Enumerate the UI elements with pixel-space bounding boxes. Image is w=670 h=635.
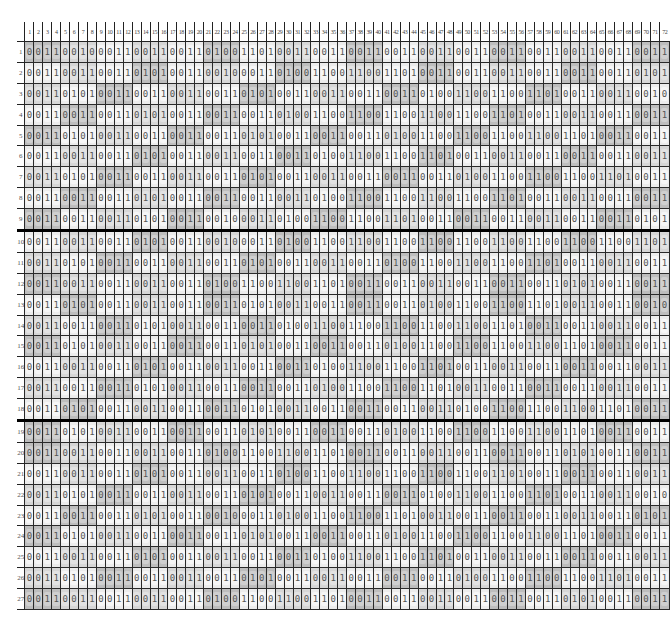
- bit-cell: 0: [257, 442, 266, 463]
- bit-value: 0: [330, 191, 337, 205]
- bit-value: 1: [294, 488, 301, 502]
- bit-cell: 0: [213, 421, 222, 443]
- bit-cell: 1: [615, 357, 624, 378]
- bit-cell: 1: [79, 209, 88, 231]
- bit-value: 0: [204, 550, 211, 564]
- bit-value: 1: [285, 108, 292, 122]
- bit-value: 0: [580, 446, 587, 460]
- bit-value: 0: [633, 87, 640, 101]
- bit-cell: 1: [222, 231, 231, 253]
- bit-cell: 0: [311, 83, 320, 104]
- bit-cell: 0: [561, 484, 570, 505]
- bit-value: 1: [481, 550, 488, 564]
- bit-cell: 1: [642, 209, 651, 231]
- bit-cell: 1: [516, 378, 525, 399]
- bit-cell: 0: [141, 399, 150, 421]
- column-header: 18: [177, 22, 186, 42]
- bit-value: 0: [106, 212, 113, 226]
- bit-cell: 1: [114, 125, 123, 146]
- bit-cell: 1: [418, 357, 427, 378]
- bit-cell: 1: [365, 252, 374, 273]
- bit-cell: 1: [659, 378, 669, 399]
- column-header: 50: [463, 22, 472, 42]
- bit-value: 1: [115, 425, 122, 439]
- bit-value: 1: [124, 550, 131, 564]
- bit-value: 1: [338, 277, 345, 291]
- bit-cell: 1: [606, 167, 615, 188]
- bit-value: 1: [52, 571, 59, 585]
- bit-cell: 0: [70, 378, 79, 399]
- bit-cell: 0: [606, 378, 615, 399]
- column-header: 62: [570, 22, 579, 42]
- bit-value: 0: [151, 319, 158, 333]
- bit-cell: 1: [427, 463, 436, 484]
- bit-value: 0: [70, 381, 77, 395]
- bit-value: 0: [580, 235, 587, 249]
- bit-value: 0: [401, 235, 408, 249]
- bit-cell: 0: [570, 315, 579, 336]
- bit-value: 1: [231, 149, 238, 163]
- bit-cell: 1: [490, 231, 499, 253]
- bit-value: 0: [642, 149, 649, 163]
- bit-cell: 1: [329, 568, 338, 589]
- bit-cell: 0: [311, 294, 320, 315]
- bit-value: 0: [401, 550, 408, 564]
- bit-cell: 1: [588, 273, 597, 294]
- bit-value: 1: [213, 592, 220, 606]
- bit-cell: 1: [79, 378, 88, 399]
- bit-cell: 0: [239, 188, 248, 209]
- bit-value: 0: [294, 509, 301, 523]
- bit-cell: 0: [105, 589, 114, 610]
- bit-value: 1: [446, 149, 453, 163]
- bit-value: 1: [222, 149, 229, 163]
- bit-cell: 1: [338, 167, 347, 188]
- bit-cell: 0: [490, 42, 499, 63]
- bit-value: 1: [419, 149, 426, 163]
- bit-value: 0: [633, 509, 640, 523]
- bit-value: 0: [383, 87, 390, 101]
- bit-value: 0: [204, 425, 211, 439]
- bit-value: 1: [535, 571, 542, 585]
- bit-value: 0: [26, 381, 33, 395]
- bit-value: 0: [330, 360, 337, 374]
- bit-value: 1: [187, 319, 194, 333]
- bit-value: 0: [204, 319, 211, 333]
- bit-cell: 0: [25, 547, 34, 568]
- bit-value: 1: [52, 108, 59, 122]
- bit-value: 1: [115, 129, 122, 143]
- column-header: 28: [266, 22, 275, 42]
- bit-value: 1: [526, 571, 533, 585]
- bit-cell: 0: [132, 421, 141, 443]
- bit-cell: 1: [356, 357, 365, 378]
- bit-value: 1: [124, 149, 131, 163]
- bit-cell: 1: [222, 167, 231, 188]
- bit-cell: 1: [624, 463, 633, 484]
- bit-cell: 1: [338, 399, 347, 421]
- bit-value: 0: [401, 381, 408, 395]
- bit-cell: 1: [123, 399, 132, 421]
- bit-value: 1: [490, 339, 497, 353]
- bit-value: 1: [544, 45, 551, 59]
- bit-value: 1: [374, 571, 381, 585]
- bit-value: 0: [464, 381, 471, 395]
- bit-value: 0: [240, 529, 247, 543]
- bit-cell: 1: [150, 442, 159, 463]
- bit-value: 0: [642, 488, 649, 502]
- bit-value: 0: [178, 509, 185, 523]
- bit-cell: 0: [508, 231, 517, 253]
- bit-value: 1: [410, 571, 417, 585]
- bit-value: 1: [365, 571, 372, 585]
- bit-cell: 1: [543, 188, 552, 209]
- bit-cell: 1: [195, 526, 204, 547]
- bit-value: 1: [526, 170, 533, 184]
- bit-value: 0: [580, 425, 587, 439]
- bit-cell: 0: [454, 547, 463, 568]
- bit-cell: 1: [579, 315, 588, 336]
- bit-cell: 1: [230, 252, 239, 273]
- bit-cell: 0: [633, 336, 642, 357]
- bit-value: 1: [661, 212, 668, 226]
- bit-cell: 1: [186, 484, 195, 505]
- bit-cell: 0: [96, 167, 105, 188]
- bit-cell: 0: [302, 505, 311, 526]
- bit-cell: 0: [248, 547, 257, 568]
